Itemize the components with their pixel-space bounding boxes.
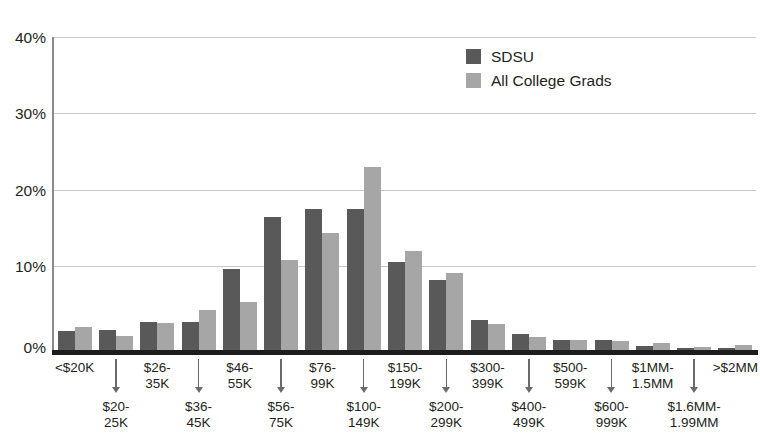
down-arrow-icon — [606, 359, 616, 393]
x-axis-line — [52, 350, 758, 355]
arrow-head — [525, 387, 533, 393]
chart-legend: SDSU All College Grads — [466, 46, 612, 94]
x-axis-label-top: $500-599K — [541, 360, 599, 392]
bar-sdsu — [347, 209, 364, 350]
x-axis-label-line1: $36- — [170, 399, 228, 415]
bar-group — [343, 37, 384, 350]
x-axis-label-top: $76-99K — [293, 360, 351, 392]
bar-group — [673, 37, 714, 350]
x-axis-label-line2: 45K — [170, 415, 228, 431]
y-axis-tick-label: 10% — [15, 258, 46, 275]
down-arrow-icon — [111, 359, 121, 393]
bar-all-college-grads — [612, 341, 629, 350]
y-axis-tick-40: 40% — [0, 29, 46, 47]
x-axis-label-line2: 99K — [293, 376, 351, 392]
y-axis-tick-label: 20% — [15, 182, 46, 199]
x-axis-label-top: $1MM-1.5MM — [624, 360, 682, 392]
bar-all-college-grads — [240, 302, 257, 351]
x-axis-label-bottom: $200-299K — [417, 399, 475, 431]
bar-group — [54, 37, 95, 350]
x-axis-label-line1: $300- — [459, 360, 517, 376]
bar-sdsu — [595, 340, 612, 350]
x-axis-label-line1: $46- — [211, 360, 269, 376]
x-axis-label-bottom: $100-149K — [335, 399, 393, 431]
x-axis-label-bottom: $36-45K — [170, 399, 228, 431]
bar-all-college-grads — [322, 233, 339, 350]
y-axis-tick-0: 0% — [0, 339, 46, 357]
arrow-stem — [528, 359, 530, 387]
bar-group — [302, 37, 343, 350]
x-axis-label-line1: $56- — [252, 399, 310, 415]
down-arrow-icon — [524, 359, 534, 393]
x-axis-label-line1: $150- — [376, 360, 434, 376]
x-axis-label-line1: $500- — [541, 360, 599, 376]
x-axis-label-line1: $76- — [293, 360, 351, 376]
y-axis-tick-20: 20% — [0, 182, 46, 200]
x-axis-label-line1: $1MM- — [624, 360, 682, 376]
bar-sdsu — [264, 217, 281, 350]
x-axis-label-bottom: $400-499K — [500, 399, 558, 431]
x-axis-label-top: <$20K — [46, 360, 104, 376]
bar-sdsu — [182, 322, 199, 350]
x-axis-label-line2: 1.99MM — [665, 415, 723, 431]
y-axis-tick-10: 10% — [0, 258, 46, 276]
y-axis-tick-label: 40% — [15, 29, 46, 46]
bar-all-college-grads — [157, 323, 174, 350]
x-axis-label-line2: 499K — [500, 415, 558, 431]
bar-group — [137, 37, 178, 350]
bar-all-college-grads — [446, 273, 463, 350]
bar-sdsu — [512, 334, 529, 350]
down-arrow-icon — [441, 359, 451, 393]
x-axis-label-line2: 399K — [459, 376, 517, 392]
bar-sdsu — [553, 340, 570, 350]
x-axis-label-top: $300-399K — [459, 360, 517, 392]
down-arrow-icon — [689, 359, 699, 393]
arrow-head — [277, 387, 285, 393]
bar-all-college-grads — [653, 343, 670, 350]
y-axis-tick-30: 30% — [0, 105, 46, 123]
bar-sdsu — [140, 322, 157, 350]
grouped-bar-chart: 40% 30% 20% 10% 0% SDSU All College Grad… — [0, 0, 760, 446]
x-axis-label-line1: $600- — [582, 399, 640, 415]
bar-sdsu — [471, 320, 488, 350]
x-axis-label-line2: 25K — [87, 415, 145, 431]
legend-item-sdsu: SDSU — [466, 46, 612, 67]
x-axis-label-top: $46-55K — [211, 360, 269, 392]
arrow-head — [112, 387, 120, 393]
arrow-stem — [611, 359, 613, 387]
arrow-stem — [280, 359, 282, 387]
bar-group — [426, 37, 467, 350]
x-axis-label-line2: 199K — [376, 376, 434, 392]
arrow-stem — [198, 359, 200, 387]
arrow-head — [360, 387, 368, 393]
x-axis-label-line1: $20- — [87, 399, 145, 415]
x-axis-label-line1: $1.6MM- — [665, 399, 723, 415]
bar-all-college-grads — [75, 327, 92, 350]
bar-all-college-grads — [364, 167, 381, 350]
x-axis-label-line2: 149K — [335, 415, 393, 431]
arrow-head — [690, 387, 698, 393]
x-axis-label-line2: 35K — [128, 376, 186, 392]
x-axis-label-top: >$2MM — [706, 360, 760, 376]
arrow-head — [442, 387, 450, 393]
arrow-stem — [115, 359, 117, 387]
x-axis-label-line1: $100- — [335, 399, 393, 415]
bar-sdsu — [388, 262, 405, 350]
x-axis-label-bottom: $20-25K — [87, 399, 145, 431]
x-axis-label-line1: $26- — [128, 360, 186, 376]
bar-all-college-grads — [116, 336, 133, 350]
down-arrow-icon — [276, 359, 286, 393]
bar-sdsu — [58, 331, 75, 350]
bar-group — [260, 37, 301, 350]
x-axis-label-line1: >$2MM — [706, 360, 760, 376]
legend-swatch-icon-sdsu — [466, 49, 481, 64]
x-axis-label-line2: 999K — [582, 415, 640, 431]
down-arrow-icon — [359, 359, 369, 393]
x-axis-label-line2: 599K — [541, 376, 599, 392]
bar-sdsu — [99, 330, 116, 350]
x-axis-label-bottom: $1.6MM-1.99MM — [665, 399, 723, 431]
arrow-head — [607, 387, 615, 393]
x-axis-label-bottom: $56-75K — [252, 399, 310, 431]
arrow-stem — [363, 359, 365, 387]
x-axis-label-line2: 1.5MM — [624, 376, 682, 392]
